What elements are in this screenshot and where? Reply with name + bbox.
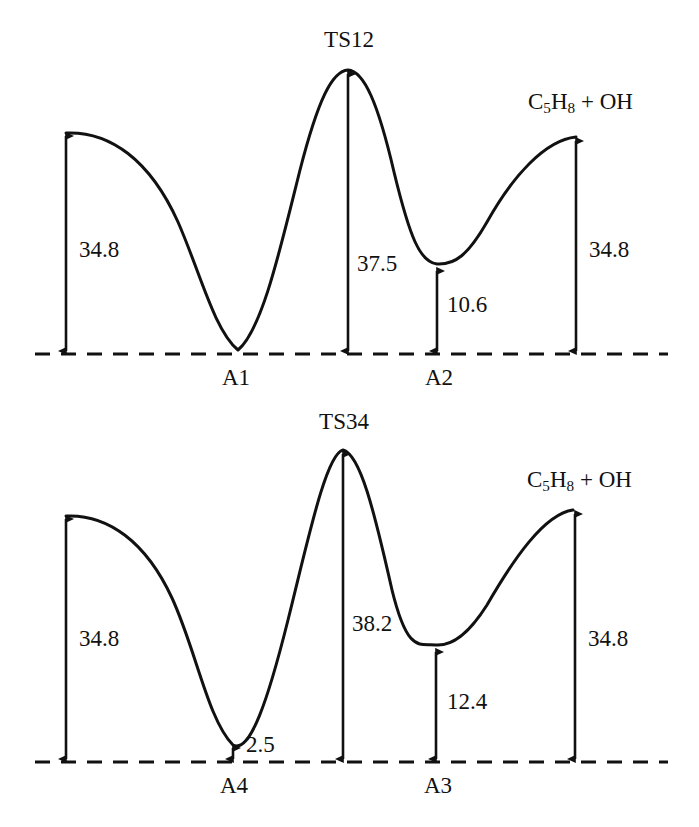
product-formula-c: C: [528, 89, 543, 114]
value-intermediate-bottom: 12.4: [447, 690, 487, 713]
state-label-a1: A1: [222, 366, 250, 389]
value-product-energy-top: 34.8: [589, 238, 629, 261]
product-formula-tail: + OH: [575, 89, 633, 114]
product-formula-tail-bottom: + OH: [574, 467, 632, 492]
value-reactant-barrier-top: 34.8: [79, 238, 119, 261]
panel-top-graphics: [0, 0, 699, 400]
ts-label-bottom: TS34: [319, 410, 369, 433]
value-intermediate-top: 10.6: [447, 293, 487, 316]
product-formula-c-bottom: C: [527, 467, 542, 492]
product-formula-h: H: [551, 89, 568, 114]
product-label-bottom: C5H8 + OH: [527, 468, 632, 493]
energy-profile-figure: TS12 C5H8 + OH 34.8 37.5 10.6 34.8 A1 A2…: [0, 0, 699, 827]
energy-curve-top: [66, 70, 576, 350]
energy-diagram-panel-bottom: TS34 C5H8 + OH 34.8 2.5 38.2 12.4 34.8 A…: [0, 400, 699, 827]
value-ts-barrier-bottom: 38.2: [352, 612, 392, 635]
state-label-a4: A4: [220, 774, 248, 797]
value-ts-barrier-top: 37.5: [357, 252, 397, 275]
ts-label-top: TS12: [324, 28, 374, 51]
value-reactant-barrier-bottom: 34.8: [79, 627, 119, 650]
value-well-depth-a4: 2.5: [246, 733, 275, 756]
state-label-a2: A2: [425, 366, 453, 389]
product-label-top: C5H8 + OH: [528, 90, 633, 115]
energy-diagram-panel-top: TS12 C5H8 + OH 34.8 37.5 10.6 34.8 A1 A2: [0, 0, 699, 400]
panel-bottom-graphics: [0, 400, 699, 827]
energy-curve-bottom: [66, 450, 573, 746]
product-formula-sub-5-bottom: 5: [542, 477, 550, 494]
value-product-energy-bottom: 34.8: [588, 627, 628, 650]
state-label-a3: A3: [424, 774, 452, 797]
product-formula-h-bottom: H: [550, 467, 567, 492]
product-formula-sub-5: 5: [543, 99, 551, 116]
